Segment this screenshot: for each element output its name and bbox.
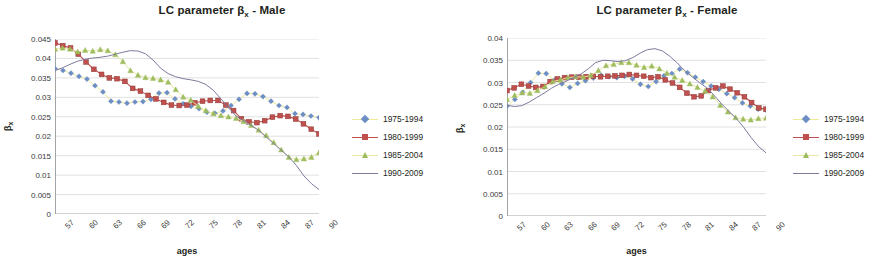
chart-title-male: LC parameter βx - Male xyxy=(0,4,444,19)
x-axis-title-text-male: ages xyxy=(177,246,198,256)
legend-key-triangle-icon xyxy=(352,150,378,161)
plot-area-female xyxy=(507,38,766,216)
legend-item[interactable]: 1980-1999 xyxy=(793,128,864,146)
legend-key-square-icon xyxy=(793,132,819,143)
x-axis-tick-label: 75 xyxy=(657,220,670,233)
y-axis-beta: β xyxy=(2,125,13,131)
chart-panel-male: LC parameter βx - Male βx 0.0450.040.035… xyxy=(0,0,444,267)
y-axis-tick-label: 0 xyxy=(445,212,503,221)
legend-item[interactable]: 1985-2004 xyxy=(352,146,423,164)
y-axis-tick-label: 0.02 xyxy=(445,123,503,132)
legend-item[interactable]: 1975-1994 xyxy=(352,110,423,128)
y-axis-tick-label: 0.03 xyxy=(445,78,503,87)
legend-label: 1975-1994 xyxy=(824,114,864,124)
x-axis-tick-label: 69 xyxy=(159,218,172,231)
x-axis-tick-label: 63 xyxy=(111,218,124,231)
x-axis-tick-label: 57 xyxy=(515,220,528,233)
x-axis-tick-label: 87 xyxy=(303,218,316,231)
chart-title-prefix: LC parameter xyxy=(159,4,238,16)
legend-item[interactable]: 1980-1999 xyxy=(352,128,423,146)
legend-label: 1990-2009 xyxy=(383,168,423,178)
x-axis-title-female: ages xyxy=(507,246,766,256)
y-axis-tick-label: 0.02 xyxy=(0,132,51,141)
x-axis-tick-label: 81 xyxy=(704,220,717,233)
x-axis-tick-label: 57 xyxy=(63,218,76,231)
y-axis-tick-label: 0.005 xyxy=(0,190,51,199)
chart-title-female: LC parameter βx - Female xyxy=(445,4,889,19)
figure-root: LC parameter βx - Male βx 0.0450.040.035… xyxy=(0,0,889,267)
x-axis-title-male: ages xyxy=(55,246,319,256)
y-axis-tick-label: 0.005 xyxy=(445,189,503,198)
legend-male: 1975-1994 1980-1999 1985-2004 xyxy=(352,110,423,182)
chart-title-suffix: - Female xyxy=(687,4,738,16)
y-axis-tick-label: 0.01 xyxy=(445,167,503,176)
legend-label: 1980-1999 xyxy=(383,132,423,142)
chart-title-suffix: - Male xyxy=(249,4,286,16)
legend-key-square-icon xyxy=(352,132,378,143)
x-axis-tick-label: 60 xyxy=(87,218,100,231)
x-axis-tick-label: 81 xyxy=(255,218,268,231)
legend-female: 1975-1994 1980-1999 1985-2004 xyxy=(793,110,864,182)
legend-key-line-icon xyxy=(352,168,378,179)
x-axis-tick-label: 72 xyxy=(633,220,646,233)
x-axis-tick-label: 60 xyxy=(539,220,552,233)
legend-item[interactable]: 1990-2009 xyxy=(793,164,864,182)
x-axis-tick-label: 84 xyxy=(279,218,292,231)
x-axis-tick-label: 63 xyxy=(562,220,575,233)
y-axis-tick-label: 0.04 xyxy=(0,54,51,63)
legend-item[interactable]: 1990-2009 xyxy=(352,164,423,182)
legend-label: 1980-1999 xyxy=(824,132,864,142)
x-axis-tick-label: 78 xyxy=(680,220,693,233)
y-axis-tick-label: 0.035 xyxy=(445,56,503,65)
legend-key-triangle-icon xyxy=(793,150,819,161)
y-axis-tick-label: 0.015 xyxy=(445,145,503,154)
x-axis-tick-label: 66 xyxy=(586,220,599,233)
plot-area-male xyxy=(55,39,319,214)
x-axis-tick-label: 69 xyxy=(609,220,622,233)
x-axis-tick-label: 90 xyxy=(327,218,340,231)
x-axis-title-text-female: ages xyxy=(626,246,647,256)
x-axis-tick-label: 87 xyxy=(751,220,764,233)
x-axis-tick-label: 90 xyxy=(774,220,787,233)
legend-label: 1985-2004 xyxy=(383,150,423,160)
legend-label: 1990-2009 xyxy=(824,168,864,178)
legend-key-line-icon xyxy=(793,168,819,179)
y-axis-tick-label: 0.015 xyxy=(0,151,51,160)
legend-item[interactable]: 1985-2004 xyxy=(793,146,864,164)
y-axis-beta-sub: x xyxy=(7,122,14,126)
y-axis-tick-label: 0.01 xyxy=(0,171,51,180)
legend-label: 1985-2004 xyxy=(824,150,864,160)
y-axis-tick-label: 0.025 xyxy=(0,112,51,121)
legend-item[interactable]: 1975-1994 xyxy=(793,110,864,128)
x-axis-tick-label: 66 xyxy=(135,218,148,231)
y-axis-tick-label: 0 xyxy=(0,210,51,219)
y-axis-tick-label: 0.035 xyxy=(0,73,51,82)
x-axis-tick-label: 75 xyxy=(207,218,220,231)
x-axis-tick-label: 78 xyxy=(231,218,244,231)
legend-key-diamond-icon xyxy=(793,114,819,125)
legend-label: 1975-1994 xyxy=(383,114,423,124)
y-axis-tick-label: 0.03 xyxy=(0,93,51,102)
legend-key-diamond-icon xyxy=(352,114,378,125)
x-axis-tick-label: 84 xyxy=(727,220,740,233)
y-axis-tick-label: 0.04 xyxy=(445,34,503,43)
y-axis-tick-label: 0.025 xyxy=(445,100,503,109)
y-axis-tick-label: 0.045 xyxy=(0,35,51,44)
x-axis-tick-label: 72 xyxy=(183,218,196,231)
chart-panel-female: LC parameter βx - Female βx 0.040.0350.0… xyxy=(445,0,889,267)
chart-title-prefix: LC parameter xyxy=(596,4,675,16)
